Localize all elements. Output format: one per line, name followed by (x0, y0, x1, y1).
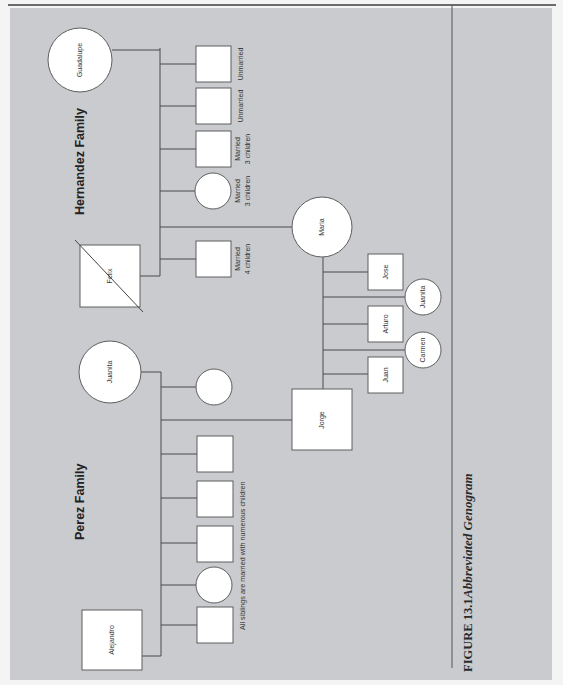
person-juanita-mother[interactable]: Juanita (79, 341, 141, 403)
perez-child-3[interactable] (197, 436, 233, 472)
arturo-label: Arturo (382, 314, 389, 333)
genogram: Hernandez Family Guadalupe Felix Unmarri… (0, 0, 563, 685)
hernandez-child-6[interactable] (196, 241, 231, 277)
figure-title: Abbreviated Genogram (460, 473, 475, 599)
hernandez-family-title: Hernandez Family (73, 108, 87, 215)
jose-label: Jose (382, 265, 389, 280)
jorge-maria-family: Maria Jose Juanita Arturo Carmen (292, 197, 441, 450)
perez-family: Perez Family Juanita Alejandro (73, 341, 292, 670)
juanita-mother-label: Juanita (106, 361, 113, 384)
figure-number: FIGURE 13.1 (461, 598, 475, 672)
hernandez-child-1-note: Unmarried (237, 48, 244, 81)
hernandez-child-3[interactable] (196, 131, 231, 167)
maria-label: Maria (318, 218, 325, 236)
person-guadalupe[interactable]: Guadalupe (48, 28, 112, 92)
perez-family-title: Perez Family (73, 464, 87, 540)
hernandez-child-4[interactable] (195, 173, 231, 209)
felix-label: Felix (106, 268, 113, 283)
perez-child-6[interactable] (196, 567, 232, 603)
carmen-label: Carmen (419, 337, 426, 362)
hernandez-family: Hernandez Family Guadalupe Felix Unmarri… (48, 28, 292, 312)
alejandro-label: Alejandro (108, 625, 116, 655)
hernandez-child-2[interactable] (196, 88, 231, 124)
hernandez-child-3-note-1: Married (234, 137, 241, 161)
figure-caption: FIGURE 13.1 Abbreviated Genogram (460, 473, 475, 672)
hernandez-child-4-note-1: Married (234, 179, 241, 203)
hernandez-child-2-note: Unmarried (237, 90, 244, 123)
hernandez-child-3-note-2: 3 children (244, 134, 251, 164)
person-felix[interactable]: Felix (75, 240, 143, 312)
jorge-label: Jorge (318, 411, 326, 429)
person-arturo[interactable]: Arturo (368, 306, 403, 342)
perez-child-7[interactable] (197, 607, 233, 643)
person-alejandro[interactable]: Alejandro (82, 610, 142, 670)
juanita-daughter-label: Juanita (419, 286, 426, 309)
hernandez-child-1[interactable] (196, 46, 231, 82)
perez-child-1[interactable] (196, 369, 232, 405)
juan-label: Juan (382, 367, 389, 382)
person-jose[interactable]: Jose (368, 254, 403, 290)
perez-child-5[interactable] (197, 526, 233, 562)
perez-siblings-note: All siblings are married with numerous c… (238, 481, 247, 630)
hernandez-child-6-note-2: 4 children (244, 244, 251, 274)
guadalupe-label: Guadalupe (76, 43, 84, 77)
hernandez-child-4-note-2: 3 children (244, 176, 251, 206)
person-juan[interactable]: Juan (368, 357, 403, 393)
person-juanita-daughter[interactable]: Juanita (405, 279, 441, 315)
person-carmen[interactable]: Carmen (405, 332, 441, 368)
person-maria[interactable]: Maria (292, 197, 352, 257)
perez-child-4[interactable] (197, 481, 233, 517)
hernandez-child-6-note-1: Married (234, 247, 241, 271)
person-jorge[interactable]: Jorge (292, 389, 352, 450)
